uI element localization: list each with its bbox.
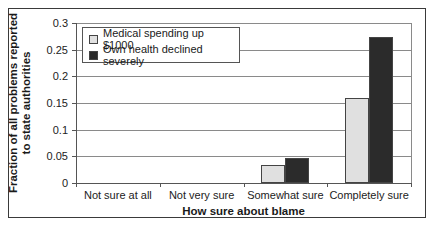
x-tick-mark xyxy=(244,183,245,187)
y-tick-label: 0.05 xyxy=(47,150,68,162)
y-tick-mark xyxy=(72,156,76,157)
legend-item-own-health: Own health declined severely xyxy=(89,48,233,62)
legend-label: Own health declined severely xyxy=(103,43,233,67)
x-category-label: Completely sure xyxy=(327,189,411,201)
y-tick-label: 0.2 xyxy=(53,70,68,82)
y-axis-label-line-1: Fraction of all problems reported xyxy=(7,8,20,198)
y-axis xyxy=(76,23,77,184)
y-tick-label: 0.1 xyxy=(53,124,68,136)
bar-own-health xyxy=(369,37,393,183)
gridline xyxy=(76,23,411,24)
legend-swatch-dark xyxy=(89,51,98,60)
x-tick-mark xyxy=(160,183,161,187)
bar-medical-spending xyxy=(261,165,285,183)
y-tick-mark xyxy=(72,76,76,77)
y-tick-label: 0.3 xyxy=(53,17,68,29)
bar-medical-spending xyxy=(345,98,369,183)
y-tick-label: 0.15 xyxy=(47,97,68,109)
plot-right-border xyxy=(411,23,412,183)
x-tick-mark xyxy=(327,183,328,187)
x-tick-mark xyxy=(76,183,77,187)
y-tick-mark xyxy=(72,130,76,131)
x-category-label: Not sure at all xyxy=(76,189,160,201)
x-tick-mark xyxy=(411,183,412,187)
legend-swatch-light xyxy=(89,35,98,44)
gridline xyxy=(76,76,411,77)
y-tick-label: 0 xyxy=(62,177,68,189)
bar-own-health xyxy=(285,158,309,183)
y-tick-mark xyxy=(72,50,76,51)
x-category-label: Not very sure xyxy=(160,189,244,201)
y-tick-label: 0.25 xyxy=(47,44,68,56)
x-category-label: Somewhat sure xyxy=(243,189,327,201)
y-tick-mark xyxy=(72,23,76,24)
x-axis-label: How sure about blame xyxy=(76,205,411,217)
y-tick-mark xyxy=(72,103,76,104)
y-axis-label: Fraction of all problems reported to sta… xyxy=(7,8,33,198)
legend: Medical spending up $1000 Own health dec… xyxy=(82,27,240,63)
y-axis-label-line-2: to state authorities xyxy=(20,8,33,198)
